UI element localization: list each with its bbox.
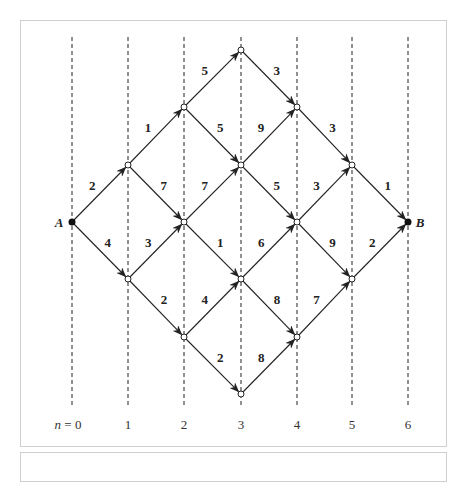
- node-3u: [238, 162, 244, 168]
- edge-weight: 2: [161, 292, 168, 307]
- edge-3b-4d: [241, 339, 295, 394]
- edge-weight: 3: [329, 120, 336, 135]
- node-3d: [238, 276, 244, 282]
- node-2m: [181, 219, 187, 225]
- edge-4m-5u: [297, 168, 350, 222]
- labels: 241732557142395688339712ABn = 0123456: [54, 63, 425, 432]
- edge-3u-4u: [241, 110, 295, 165]
- edge-5d-B: [352, 224, 406, 279]
- edge-weight: 7: [201, 178, 208, 193]
- stage-axis-label-0: n = 0: [55, 417, 82, 432]
- stage-axis-label-5: 5: [349, 417, 356, 432]
- node-2d: [181, 334, 187, 340]
- edge-weight: 2: [89, 178, 96, 193]
- edge-weight: 9: [329, 235, 336, 250]
- stage-axis-label-1: 1: [125, 417, 132, 432]
- edge-weight: 9: [258, 120, 265, 135]
- edge-weight: 1: [145, 120, 152, 135]
- edge-2d-3d: [184, 281, 239, 337]
- edge-weight: 7: [161, 178, 168, 193]
- edge-weight: 2: [369, 235, 376, 250]
- edge-1u-2u: [128, 110, 182, 165]
- edge-A-1u: [72, 167, 126, 222]
- edge-2d-3b: [184, 337, 239, 392]
- edge-4u-5u: [297, 107, 350, 162]
- edge-1u-2m: [128, 165, 182, 220]
- stage-axis-label-3: 3: [238, 417, 245, 432]
- edge-3u-4m: [241, 165, 295, 220]
- edge-A-1d: [72, 222, 126, 277]
- edge-3d-4d: [241, 279, 295, 334]
- edge-5u-B: [352, 165, 406, 220]
- node-1d: [125, 276, 131, 282]
- edge-weight: 8: [274, 292, 281, 307]
- node-4d: [294, 334, 300, 340]
- edge-weight: 5: [274, 178, 281, 193]
- edges: [72, 50, 406, 394]
- edge-1d-2m: [128, 224, 182, 279]
- edge-weight: 4: [105, 235, 112, 250]
- stage-axis-label-6: 6: [405, 417, 412, 432]
- node-1u: [125, 162, 131, 168]
- stage-gridlines: [72, 37, 408, 407]
- edge-weight: 3: [145, 235, 152, 250]
- edge-weight: 4: [201, 292, 208, 307]
- edge-weight: 5: [201, 63, 208, 78]
- edge-2m-3d: [184, 222, 239, 277]
- terminal-node-A: [69, 219, 76, 226]
- edge-3d-4m: [241, 224, 295, 279]
- edge-weight: 3: [313, 178, 320, 193]
- node-4m: [294, 219, 300, 225]
- terminal-node-B: [405, 219, 412, 226]
- edge-2u-3u: [184, 107, 239, 163]
- edge-weight: 6: [258, 235, 265, 250]
- edge-weight: 1: [217, 235, 224, 250]
- stage-axis-label-2: 2: [181, 417, 188, 432]
- node-4u: [294, 104, 300, 110]
- node-2u: [181, 104, 187, 110]
- edge-2m-3u: [184, 167, 239, 222]
- edge-weight: 7: [313, 292, 320, 307]
- edge-4m-5d: [297, 222, 350, 276]
- stage-axis-label-4: 4: [294, 417, 301, 432]
- edge-1d-2d: [128, 279, 182, 334]
- edge-4d-5d: [297, 282, 350, 337]
- node-3t: [238, 47, 244, 53]
- edge-weight: 2: [217, 350, 224, 365]
- node-5d: [349, 276, 355, 282]
- edge-3t-4u: [241, 50, 295, 105]
- node-5u: [349, 162, 355, 168]
- edge-2u-3t: [184, 52, 239, 107]
- node-3b: [238, 391, 244, 397]
- start-label: A: [54, 215, 64, 230]
- nodes: [69, 47, 412, 397]
- edge-weight: 8: [258, 350, 265, 365]
- edge-weight: 5: [217, 120, 224, 135]
- edge-weight: 1: [385, 178, 392, 193]
- edge-weight: 3: [274, 63, 281, 78]
- end-label: B: [415, 215, 425, 230]
